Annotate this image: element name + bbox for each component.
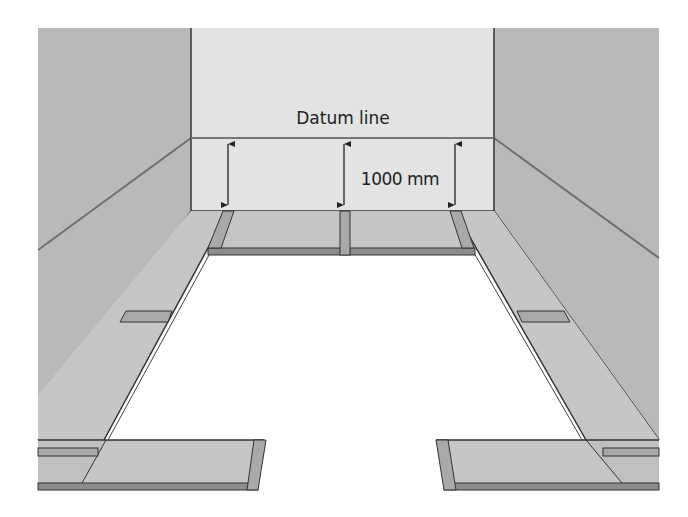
front-right-floor-strip	[436, 440, 659, 490]
dimension-label: 1000 mm	[361, 169, 439, 189]
back-floor-strip	[208, 211, 475, 255]
front-left-floor-strip	[38, 440, 266, 490]
room-diagram: Datum line 1000 mm	[0, 0, 688, 517]
datum-line-label: Datum line	[296, 108, 390, 128]
